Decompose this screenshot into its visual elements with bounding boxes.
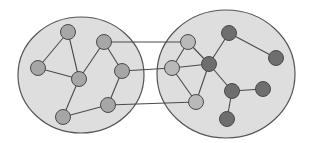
node-F xyxy=(101,98,116,113)
node-N xyxy=(225,84,240,99)
node-P xyxy=(220,112,235,127)
node-E xyxy=(115,64,130,79)
node-I xyxy=(165,61,180,76)
node-G xyxy=(56,110,71,125)
node-J xyxy=(189,95,204,110)
node-A xyxy=(61,25,76,40)
node-D xyxy=(72,72,87,87)
node-M xyxy=(269,51,284,66)
node-B xyxy=(97,35,112,50)
network-cluster-diagram xyxy=(0,0,309,143)
node-O xyxy=(256,82,271,97)
node-K xyxy=(202,57,217,72)
node-L xyxy=(222,26,237,41)
node-H xyxy=(181,35,196,50)
node-C xyxy=(31,61,46,76)
